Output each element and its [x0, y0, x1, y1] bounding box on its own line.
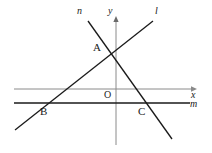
y-axis: [113, 16, 118, 145]
point-a-label: A: [93, 42, 101, 53]
line-l: [15, 21, 153, 130]
y-axis-label: y: [108, 6, 112, 16]
point-c-label: C: [138, 106, 145, 117]
origin-label: O: [104, 90, 111, 100]
line-m-label: m: [190, 99, 197, 109]
line-l-label: l: [155, 6, 158, 16]
geometry-figure: n y l x m A B C O: [0, 0, 212, 153]
y-axis-arrowhead: [113, 16, 118, 22]
geometry-canvas: [0, 0, 212, 153]
point-b-label: B: [40, 106, 47, 117]
line-n-label: n: [77, 6, 82, 16]
